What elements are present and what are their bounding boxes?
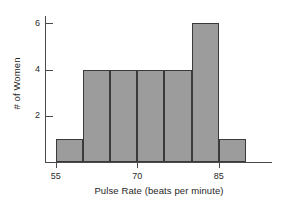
histogram-bars [45,14,273,162]
y-axis-title: # of Women [11,44,22,124]
y-tick-label: 2 [20,111,40,120]
y-tick-label: 6 [20,19,40,28]
x-tick-label: 55 [41,171,71,181]
histogram-bar [219,139,246,162]
x-axis-title: Pulse Rate (beats per minute) [45,185,273,196]
histogram-bar [137,70,164,163]
x-axis-line [45,162,272,163]
x-tick-label: 85 [204,171,234,181]
histogram-bar [56,139,83,162]
y-tick-label: 4 [20,65,40,74]
histogram-bar [83,70,110,163]
histogram-figure: 246 557085 Pulse Rate (beats per minute)… [0,0,281,210]
histogram-bar [110,70,137,163]
histogram-bar [164,70,191,163]
x-tick-mark [219,163,220,168]
histogram-bar [192,23,219,162]
x-tick-mark [56,163,57,168]
x-tick-label: 70 [122,171,152,181]
x-tick-mark [137,163,138,168]
